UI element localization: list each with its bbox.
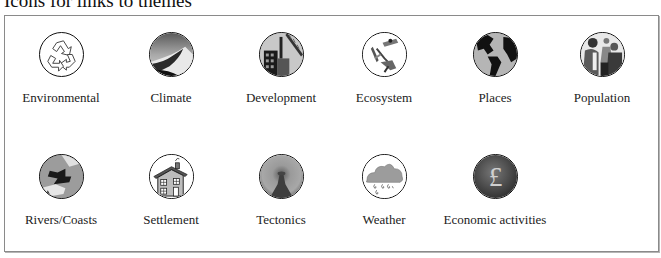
svg-text:£: £ xyxy=(488,162,502,192)
house-icon xyxy=(149,154,194,199)
theme-label: Development xyxy=(226,90,336,106)
theme-link-rivers-coasts[interactable]: Rivers/Coasts xyxy=(6,154,116,228)
theme-link-economic-activities[interactable]: £ Economic activities xyxy=(440,154,550,228)
theme-label: Places xyxy=(440,90,550,106)
rain-cloud-icon xyxy=(362,154,407,199)
theme-link-places[interactable]: Places xyxy=(440,32,550,106)
pound-sign-icon: £ xyxy=(473,154,518,199)
volcano-icon xyxy=(259,154,304,199)
theme-link-population[interactable]: Population xyxy=(547,32,657,106)
theme-link-climate[interactable]: Climate xyxy=(116,32,226,106)
river-icon xyxy=(39,154,84,199)
theme-link-tectonics[interactable]: Tectonics xyxy=(226,154,336,228)
theme-label: Ecosystem xyxy=(329,90,439,106)
recycle-icon xyxy=(39,32,84,77)
theme-link-settlement[interactable]: Settlement xyxy=(116,154,226,228)
theme-link-development[interactable]: Development xyxy=(226,32,336,106)
theme-label: Weather xyxy=(329,212,439,228)
theme-label: Economic activities xyxy=(440,212,550,228)
insects-icon xyxy=(362,32,407,77)
desert-dune-icon xyxy=(149,32,194,77)
people-icon xyxy=(580,32,625,77)
theme-link-ecosystem[interactable]: Ecosystem xyxy=(329,32,439,106)
theme-link-weather[interactable]: Weather xyxy=(329,154,439,228)
theme-label: Population xyxy=(547,90,657,106)
theme-label: Rivers/Coasts xyxy=(6,212,116,228)
theme-link-environmental[interactable]: Environmental xyxy=(6,32,116,106)
globe-icon xyxy=(473,32,518,77)
construction-crane-icon xyxy=(259,32,304,77)
page-title: Icons for links to themes xyxy=(4,0,192,12)
theme-label: Tectonics xyxy=(226,212,336,228)
theme-label: Environmental xyxy=(6,90,116,106)
theme-label: Settlement xyxy=(116,212,226,228)
theme-label: Climate xyxy=(116,90,226,106)
